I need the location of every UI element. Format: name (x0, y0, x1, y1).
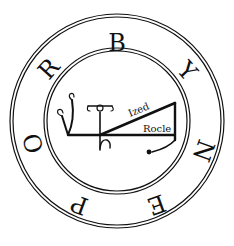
sigil-crossbar-curl-right (111, 106, 113, 111)
ring-letter-n: N (187, 136, 220, 165)
ring-letter-e: E (143, 188, 169, 220)
sigil-v-left (62, 116, 68, 135)
sigil-curl-top (69, 93, 74, 100)
seal-figure: BYNEPOR Ized Rocle (0, 0, 234, 246)
ring-letter-r: R (32, 52, 66, 85)
sigil-hook-dot (147, 150, 152, 155)
sigil-hook (152, 140, 175, 152)
sigil-stem-hook (100, 140, 110, 148)
sigil-crossbar-curl-left (87, 106, 90, 111)
inner-circle-outer (44, 48, 190, 194)
sigil-curl-left (58, 109, 64, 116)
sigil-v-right (68, 100, 73, 135)
ring-letter-o: O (17, 130, 49, 156)
sigil-label-lower: Rocle (143, 123, 171, 134)
inner-circle-inner (47, 51, 187, 191)
ring-letter-b: B (108, 29, 126, 57)
ring-letter-p: P (67, 188, 92, 220)
